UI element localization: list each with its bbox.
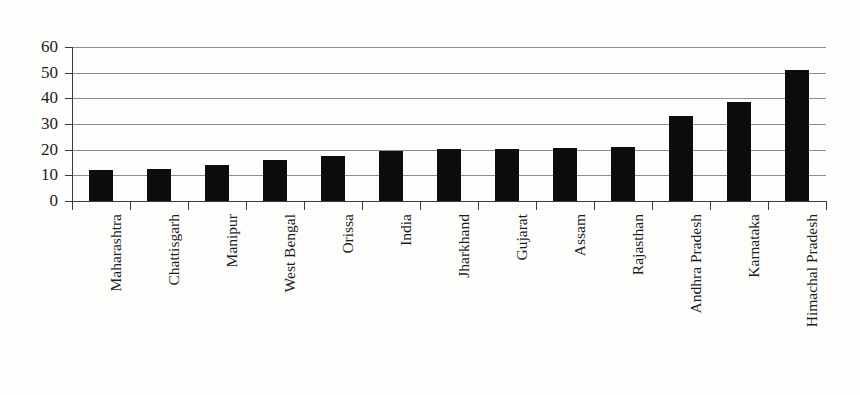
bar [495,149,519,201]
bar [785,70,809,201]
y-axis-line [72,47,73,202]
bar [669,116,693,201]
x-axis-tick-mark [536,201,537,210]
y-axis-tick-mark [65,175,72,176]
x-axis-tick-mark [594,201,595,210]
gridline [72,47,826,48]
bar [437,149,461,201]
x-axis-tick-mark [710,201,711,210]
x-axis-tick-mark [768,201,769,210]
y-axis-tick-label: 30 [24,115,58,132]
y-axis-tick-label: 20 [24,141,58,158]
bar [553,148,577,201]
y-axis-tick-mark [65,124,72,125]
bar [727,102,751,201]
x-axis-tick-label: Assam [572,214,588,256]
y-axis-tick-label: 60 [24,38,58,55]
bar [89,170,113,201]
x-axis-tick-mark [362,201,363,210]
y-axis-tick-mark [65,201,72,202]
y-axis-tick-mark [65,73,72,74]
bar-chart: 0102030405060 MaharashtraChattisgarhMani… [0,0,860,395]
x-axis-tick-label: West Bengal [282,214,298,292]
y-axis-tick-label: 40 [24,89,58,106]
x-axis-tick-mark [420,201,421,210]
y-axis-tick-label: 0 [24,192,58,209]
bar [205,165,229,201]
x-axis-tick-label: Orissa [340,214,356,254]
x-axis-tick-mark [188,201,189,210]
chart-page: 0102030405060 MaharashtraChattisgarhMani… [0,0,860,395]
bar [147,169,171,201]
x-axis-tick-mark [652,201,653,210]
bar [379,151,403,201]
x-axis-tick-mark [304,201,305,210]
x-axis-tick-mark [478,201,479,210]
y-axis-tick-mark [65,47,72,48]
gridline [72,98,826,99]
gridline [72,73,826,74]
x-axis-tick-label: Himachal Pradesh [804,214,820,327]
y-axis-tick-mark [65,98,72,99]
x-axis-tick-mark [246,201,247,210]
x-axis-tick-label: Maharashtra [108,214,124,291]
x-axis-tick-mark [130,201,131,210]
x-axis-tick-mark [826,201,827,210]
x-axis-tick-label: Andhra Pradesh [688,214,704,313]
bar [611,147,635,201]
x-axis-tick-label: Karnataka [746,214,762,278]
x-axis-tick-label: India [398,214,414,246]
y-axis-tick-mark [65,150,72,151]
bar [321,156,345,201]
y-axis-tick-label: 10 [24,166,58,183]
bar [263,160,287,201]
x-axis-tick-label: Rajasthan [630,214,646,275]
x-axis-tick-label: Chattisgarh [166,214,182,285]
x-axis-tick-label: Jharkhand [456,214,472,278]
x-axis-tick-mark [72,201,73,210]
y-axis-tick-label: 50 [24,64,58,81]
x-axis-tick-label: Manipur [224,214,240,267]
x-axis-tick-label: Gujarat [514,214,530,260]
x-axis-line [72,201,826,202]
gridline [72,124,826,125]
